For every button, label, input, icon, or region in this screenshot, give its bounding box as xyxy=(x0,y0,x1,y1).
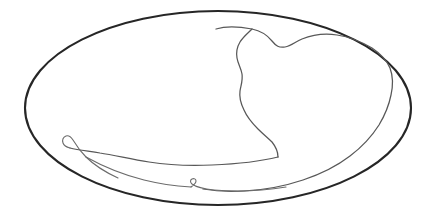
drawing-canvas: Line drawing of an oval plate with an ir… xyxy=(0,0,435,220)
inner-bottom-notch-path xyxy=(191,179,287,191)
inner-central-wave-path xyxy=(237,29,278,157)
line-drawing-svg xyxy=(0,0,435,220)
inner-bottom-return-line-path xyxy=(86,157,191,187)
plate-rim-path xyxy=(25,11,411,205)
inner-crescent-contour-path xyxy=(203,27,392,191)
inner-lower-belly-sweep-path xyxy=(70,148,278,165)
